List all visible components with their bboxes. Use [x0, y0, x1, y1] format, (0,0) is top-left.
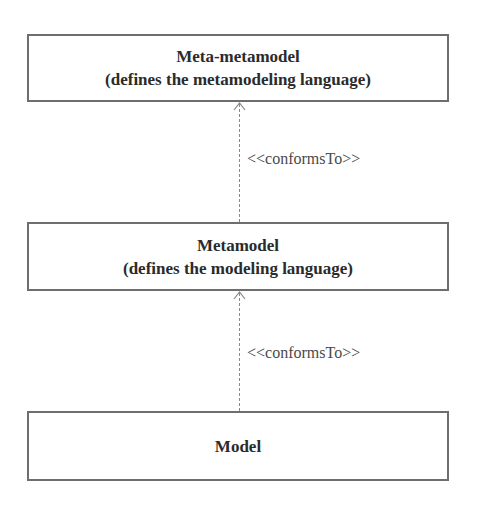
meta-metamodel-box: Meta-metamodel (defines the metamodeling… [27, 34, 449, 102]
conforms-to-connector-upper [239, 104, 240, 222]
model-title: Model [215, 435, 261, 458]
meta-metamodel-title: Meta-metamodel [176, 45, 300, 68]
metamodel-title: Metamodel [197, 234, 279, 257]
open-arrowhead-icon [233, 291, 246, 300]
conforms-to-label-upper: <<conformsTo>> [247, 150, 360, 168]
metamodel-box: Metamodel (defines the modeling language… [27, 222, 449, 291]
meta-metamodel-subtitle: (defines the metamodeling language) [105, 68, 371, 91]
conforms-to-label-lower: <<conformsTo>> [247, 344, 360, 362]
open-arrowhead-icon [233, 102, 246, 111]
conforms-to-connector-lower [239, 293, 240, 411]
metamodel-subtitle: (defines the modeling language) [123, 257, 353, 280]
model-box: Model [27, 411, 449, 481]
